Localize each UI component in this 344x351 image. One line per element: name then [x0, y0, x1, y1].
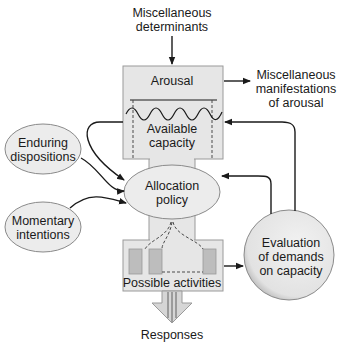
svg-text:capacity: capacity	[149, 136, 196, 150]
svg-text:determinants: determinants	[136, 20, 208, 34]
evaluation-node: Evaluation of demands on capacity	[244, 210, 334, 300]
svg-text:Evaluation: Evaluation	[262, 236, 320, 250]
enduring-dispositions-node: Enduring dispositions	[5, 124, 81, 174]
possible-activities-label: Possible activities	[123, 276, 222, 290]
available-capacity-label: Available capacity	[147, 122, 198, 150]
svg-text:Miscellaneous: Miscellaneous	[256, 68, 335, 82]
svg-text:Enduring: Enduring	[18, 136, 68, 150]
svg-text:Allocation: Allocation	[145, 179, 199, 193]
misc-manifestations-label: Miscellaneous manifestations of arousal	[256, 68, 337, 110]
arrow-evaluation-to-capacity	[225, 122, 295, 211]
responses-label: Responses	[141, 328, 204, 342]
arrow-evaluation-to-allocation	[222, 176, 271, 214]
allocation-policy-node: Allocation policy	[124, 165, 220, 219]
svg-text:of arousal: of arousal	[269, 96, 324, 110]
svg-text:on capacity: on capacity	[259, 264, 323, 278]
arrow-momentary-to-allocation	[70, 197, 126, 208]
arrow-capacity-to-allocation	[87, 122, 124, 180]
svg-text:Momentary: Momentary	[12, 214, 75, 228]
responses-arrow	[152, 291, 192, 323]
capacity-model-diagram: Miscellaneous determinants Arousal Misce…	[0, 0, 344, 351]
svg-text:intentions: intentions	[16, 228, 70, 242]
svg-text:of demands: of demands	[258, 250, 323, 264]
svg-text:dispositions: dispositions	[10, 150, 75, 164]
svg-text:Available: Available	[147, 122, 198, 136]
misc-determinants-label: Miscellaneous determinants	[132, 6, 211, 34]
svg-text:manifestations: manifestations	[256, 82, 337, 96]
arousal-label: Arousal	[151, 74, 193, 88]
svg-text:policy: policy	[156, 193, 189, 207]
momentary-intentions-node: Momentary intentions	[5, 202, 81, 252]
svg-text:Miscellaneous: Miscellaneous	[132, 6, 211, 20]
